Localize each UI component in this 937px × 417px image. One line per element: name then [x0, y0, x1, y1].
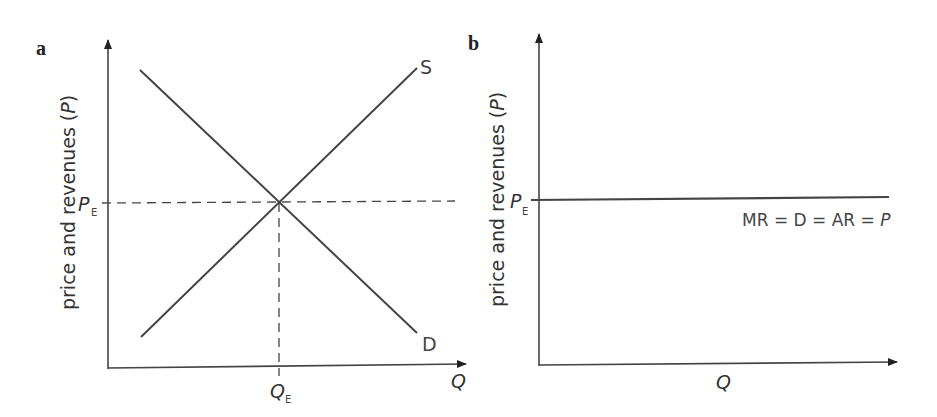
mr-d-ar-p-line	[531, 197, 889, 200]
panel-label-a: a	[36, 37, 46, 59]
y-axis-label-b: price and revenues (P)	[486, 92, 508, 307]
x-axis-label-b: Q	[716, 371, 731, 393]
panel-b: b P E MR = D = AR = P Q price and revenu…	[468, 32, 897, 393]
price-equilibrium-subscript: E	[91, 207, 97, 218]
quantity-equilibrium-subscript: E	[285, 394, 291, 405]
demand-label: D	[422, 333, 437, 355]
mr-d-ar-p-label: MR = D = AR = P	[742, 210, 891, 230]
x-axis-label-a: Q	[451, 370, 466, 392]
price-equilibrium-label-b: P	[510, 190, 522, 212]
figure-canvas: a S D P E Q E Q price and revenues (P) b	[0, 0, 937, 417]
supply-label: S	[420, 56, 432, 78]
panel-label-b: b	[468, 32, 479, 54]
quantity-equilibrium-label: Q	[270, 380, 285, 402]
x-axis-a	[108, 364, 466, 368]
panel-a: a S D P E Q E Q price and revenues (P)	[36, 37, 466, 405]
price-equilibrium-label: P	[78, 193, 90, 215]
x-axis-b	[539, 362, 897, 365]
y-axis-label-a: price and revenues (P)	[57, 95, 79, 310]
price-equilibrium-subscript-b: E	[522, 206, 528, 217]
